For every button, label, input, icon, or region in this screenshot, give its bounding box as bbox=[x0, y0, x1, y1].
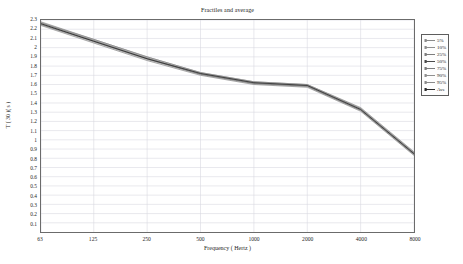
legend-item[interactable]: 95% bbox=[424, 79, 446, 86]
legend-line-icon bbox=[424, 65, 436, 72]
y-tick-label: 0.1 bbox=[30, 221, 37, 227]
legend-item-label: Ave bbox=[437, 86, 445, 93]
x-tick-label: 2000 bbox=[302, 236, 313, 242]
y-tick-label: 1.8 bbox=[30, 63, 37, 69]
x-tick-label: 63 bbox=[37, 236, 43, 242]
legend-line-icon bbox=[424, 86, 436, 93]
legend-line-icon bbox=[424, 72, 436, 79]
series-line bbox=[41, 26, 414, 156]
y-axis-title: T ( 30 )( s ) bbox=[5, 83, 11, 147]
x-tick-label: 4000 bbox=[356, 236, 367, 242]
y-tick-label: 2.3 bbox=[30, 16, 37, 22]
legend-item-label: 90% bbox=[437, 72, 446, 79]
y-tick-label: 0.8 bbox=[30, 156, 37, 162]
y-tick-label: 2.1 bbox=[30, 35, 37, 41]
legend-item[interactable]: 5% bbox=[424, 37, 446, 44]
legend-item[interactable]: 90% bbox=[424, 72, 446, 79]
x-tick-label: 8000 bbox=[409, 236, 420, 242]
legend-item-label: 75% bbox=[437, 65, 446, 72]
legend-line-icon bbox=[424, 51, 436, 58]
y-tick-label: 1.6 bbox=[30, 81, 37, 87]
y-tick-label: 0.4 bbox=[30, 193, 37, 199]
legend-item-label: 25% bbox=[437, 51, 446, 58]
x-tick-label: 500 bbox=[196, 236, 204, 242]
legend-line-icon bbox=[424, 58, 436, 65]
y-tick-label: 0.6 bbox=[30, 174, 37, 180]
series-lines bbox=[41, 20, 414, 232]
y-tick-label: 1.5 bbox=[30, 90, 37, 96]
chart-page: Fractiles and average 2.32.22.121.91.81.… bbox=[0, 0, 463, 264]
legend-line-icon bbox=[424, 44, 436, 51]
legend-item-label: 10% bbox=[437, 44, 446, 51]
legend-line-icon bbox=[424, 79, 436, 86]
legend[interactable]: 5%10%25%50%75%90%95%Ave bbox=[421, 34, 449, 96]
legend-line-icon bbox=[424, 37, 436, 44]
y-tick-label: 1.2 bbox=[30, 118, 37, 124]
y-tick-label: 1.3 bbox=[30, 109, 37, 115]
legend-item[interactable]: 10% bbox=[424, 44, 446, 51]
y-tick-label: 0.7 bbox=[30, 165, 37, 171]
y-tick-label: 0.2 bbox=[30, 211, 37, 217]
legend-item[interactable]: 50% bbox=[424, 58, 446, 65]
legend-item[interactable]: 75% bbox=[424, 65, 446, 72]
plot-area bbox=[40, 19, 415, 233]
y-tick-label: 0.5 bbox=[30, 183, 37, 189]
y-tick-label: 0.3 bbox=[30, 202, 37, 208]
legend-item[interactable]: Ave bbox=[424, 86, 446, 93]
x-tick-label: 250 bbox=[142, 236, 150, 242]
y-tick-label: 1 bbox=[34, 137, 37, 143]
y-tick-label: 1.4 bbox=[30, 100, 37, 106]
legend-item-label: 50% bbox=[437, 58, 446, 65]
legend-item-label: 95% bbox=[437, 79, 446, 86]
chart-title: Fractiles and average bbox=[40, 7, 415, 13]
y-tick-label: 1.9 bbox=[30, 53, 37, 59]
x-tick-label: 1000 bbox=[248, 236, 259, 242]
y-tick-label: 2 bbox=[34, 44, 37, 50]
y-tick-label: 2.2 bbox=[30, 25, 37, 31]
legend-item-label: 5% bbox=[437, 37, 444, 44]
legend-item[interactable]: 25% bbox=[424, 51, 446, 58]
y-tick-label: 0.9 bbox=[30, 146, 37, 152]
x-tick-label: 125 bbox=[89, 236, 97, 242]
x-axis-title: Frequency ( Hertz ) bbox=[40, 245, 415, 251]
y-tick-label: 1.1 bbox=[30, 128, 37, 134]
y-tick-label: 1.7 bbox=[30, 72, 37, 78]
